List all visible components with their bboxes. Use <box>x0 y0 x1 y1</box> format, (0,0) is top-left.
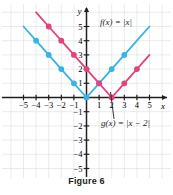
x-tick-label: −2 <box>57 100 66 110</box>
f-data-point <box>109 66 115 72</box>
y-tick-label: −5 <box>73 164 82 174</box>
x-tick-label: 3 <box>122 100 126 110</box>
x-tick-label: −4 <box>32 100 42 110</box>
y-tick-label: −3 <box>73 135 82 145</box>
g-data-point <box>96 80 102 86</box>
y-tick-label: 3 <box>78 50 82 60</box>
y-axis-label: y <box>77 6 82 16</box>
g-data-point <box>121 80 127 86</box>
axis-tick-labels: −5−4−3−2−11234554321−1−2−3−4−5xy <box>19 6 165 174</box>
y-tick-label: −2 <box>73 121 82 131</box>
y-tick-label: 5 <box>78 22 82 32</box>
y-tick-label: 1 <box>78 78 82 88</box>
x-tick-label: 4 <box>135 100 140 110</box>
f-data-point <box>71 80 77 86</box>
y-tick-label: 2 <box>78 64 82 74</box>
f-data-point <box>84 95 90 101</box>
f-data-point <box>46 52 52 58</box>
f-data-point <box>121 52 127 58</box>
g-data-point <box>84 66 90 72</box>
f-data-point <box>58 66 64 72</box>
g-function-label: g(x) = |x − 2| <box>101 118 150 128</box>
y-tick-label: −1 <box>73 107 82 117</box>
figure-container: −5−4−3−2−11234554321−1−2−3−4−5xy f(x) = … <box>0 0 173 195</box>
y-tick-label: −4 <box>73 149 83 159</box>
figure-caption: Figure 6 <box>0 176 173 186</box>
g-data-point <box>134 66 140 72</box>
x-tick-label: 5 <box>147 100 151 110</box>
g-data-point <box>71 52 77 58</box>
x-tick-label: 1 <box>97 100 101 110</box>
x-tick-label: −3 <box>44 100 53 110</box>
g-data-point <box>58 38 64 44</box>
x-axis-label: x <box>160 101 165 111</box>
axes <box>2 7 167 177</box>
f-function-label: f(x) = |x| <box>100 17 132 27</box>
x-tick-label: −5 <box>19 100 28 110</box>
f-data-point <box>33 38 39 44</box>
g-data-point <box>46 24 52 30</box>
coordinate-plane-chart: −5−4−3−2−11234554321−1−2−3−4−5xy f(x) = … <box>0 0 173 180</box>
